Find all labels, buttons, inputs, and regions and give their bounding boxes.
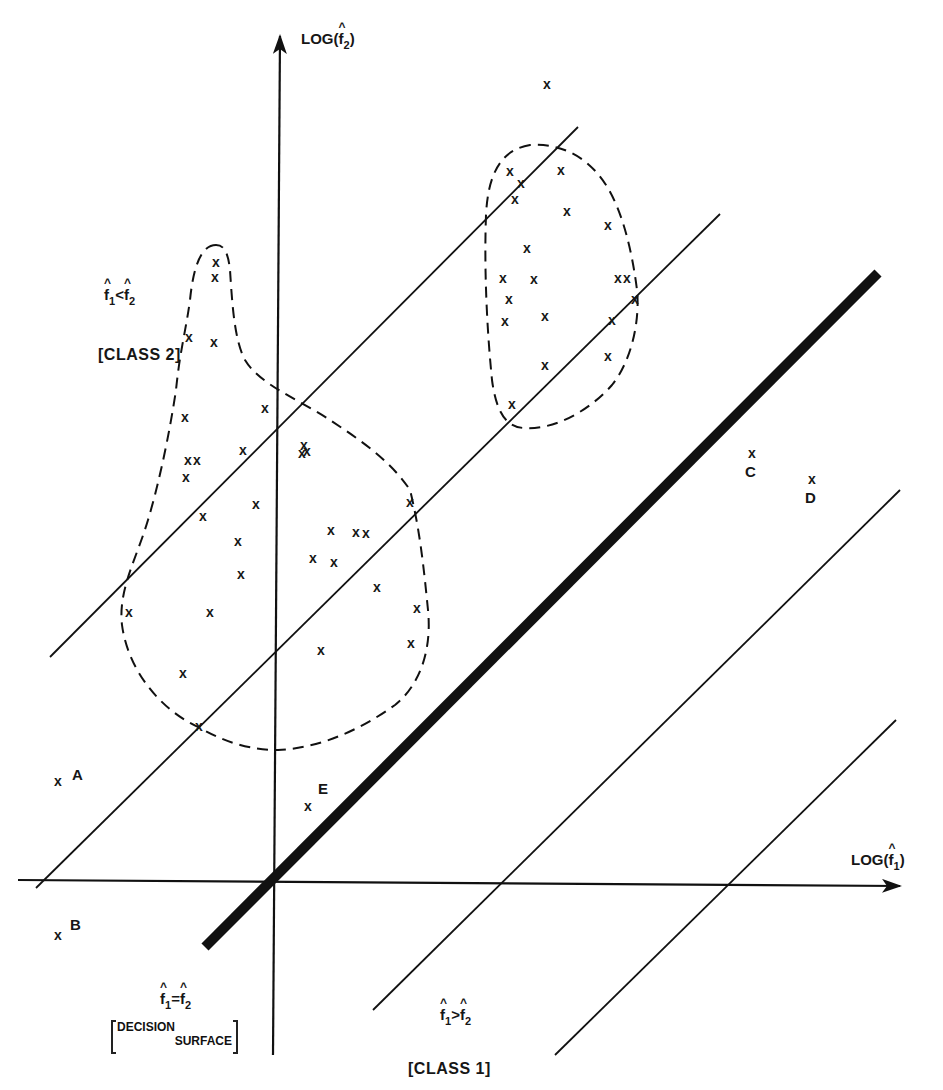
- data-point-marker: x: [604, 348, 612, 364]
- data-point-marker: x: [523, 240, 531, 256]
- labeled-point-marker-c: x: [748, 445, 756, 461]
- x-axis-var: f: [889, 851, 894, 868]
- data-point-marker: x: [508, 396, 516, 412]
- decision-surface-line: [205, 273, 878, 947]
- data-point-marker: x: [239, 442, 247, 458]
- class1-label: [CLASS 1]: [408, 1060, 491, 1078]
- data-point-marker: x: [185, 329, 193, 345]
- data-point-marker: x: [543, 76, 551, 92]
- ds-var2: f: [180, 990, 185, 1007]
- data-point-marker: x: [237, 566, 245, 582]
- data-point-marker: x: [125, 604, 133, 620]
- data-point-marker: x: [362, 525, 370, 541]
- data-point-marker: x: [608, 312, 616, 328]
- threshold-line-lower-1: [373, 490, 900, 1010]
- hat-f-icon: f: [460, 1006, 465, 1023]
- data-point-marker: x: [210, 334, 218, 350]
- data-point-marker: x: [406, 494, 414, 510]
- hat-f-icon: f: [339, 30, 344, 47]
- ds-var1: f: [160, 990, 165, 1007]
- cluster-markers: xxxxxxxxxxxxxxxxxxxxxxxxxxxxxxxxxxxxxxxx…: [125, 76, 639, 734]
- decision-surface-line1: DECISION: [117, 1020, 232, 1034]
- point-label-b: B: [70, 916, 81, 933]
- hat-f-icon: f: [124, 286, 129, 303]
- hat-f-icon: f: [440, 1006, 445, 1023]
- data-point-marker: x: [557, 162, 565, 178]
- decision-surface-label: DECISION SURFACE: [111, 1020, 238, 1054]
- class1-op: >: [451, 1006, 460, 1023]
- data-point-marker: x: [184, 452, 192, 468]
- data-point-marker: x: [352, 524, 360, 540]
- x-axis: [18, 880, 900, 886]
- data-point-marker: x: [373, 579, 381, 595]
- data-point-marker: x: [206, 604, 214, 620]
- labeled-point-markers: xxxxx: [54, 445, 816, 943]
- data-point-marker: x: [317, 642, 325, 658]
- data-point-marker: x: [303, 443, 311, 459]
- point-label-e: E: [318, 780, 328, 797]
- hat-f-icon: f: [180, 990, 185, 1007]
- x-axis-label-prefix: LOG(: [851, 851, 889, 868]
- class2-sub2: 2: [129, 295, 135, 307]
- hat-f-icon: f: [889, 851, 894, 868]
- data-point-marker: x: [182, 469, 190, 485]
- data-point-marker: x: [541, 308, 549, 324]
- data-point-marker: x: [517, 175, 525, 191]
- data-point-marker: x: [327, 522, 335, 538]
- labeled-point-marker-d: x: [808, 471, 816, 487]
- data-point-marker: x: [212, 254, 220, 270]
- point-label-a: A: [72, 766, 83, 783]
- y-axis-label-prefix: LOG(: [301, 30, 339, 47]
- class1-var1: f: [440, 1006, 445, 1023]
- data-point-marker: x: [181, 409, 189, 425]
- data-point-marker: x: [614, 270, 622, 286]
- data-point-marker: x: [530, 271, 538, 287]
- x-axis-label-close: ): [900, 851, 905, 868]
- class2-label: [CLASS 2]: [98, 346, 181, 364]
- hat-f-icon: f: [160, 990, 165, 1007]
- data-point-marker: x: [234, 533, 242, 549]
- class2-var1: f: [104, 286, 109, 303]
- feature-space-diagram: xxxxxxxxxxxxxxxxxxxxxxxxxxxxxxxxxxxxxxxx…: [0, 0, 943, 1090]
- y-axis-var: f: [339, 30, 344, 47]
- threshold-line-lower-2: [555, 720, 896, 1055]
- class2-op: <: [115, 286, 124, 303]
- y-axis: [273, 36, 280, 1055]
- data-point-marker: x: [623, 270, 631, 286]
- y-axis-label: LOG(f2): [301, 30, 355, 51]
- y-axis-label-close: ): [350, 30, 355, 47]
- data-point-marker: x: [541, 357, 549, 373]
- threshold-line-mid: [36, 214, 720, 888]
- data-point-marker: x: [499, 270, 507, 286]
- data-point-marker: x: [501, 313, 509, 329]
- data-point-marker: x: [407, 635, 415, 651]
- data-point-marker: x: [193, 452, 201, 468]
- data-point-marker: x: [211, 269, 219, 285]
- class1-sub2: 2: [465, 1015, 471, 1027]
- data-point-marker: x: [631, 291, 639, 307]
- data-point-marker: x: [413, 600, 421, 616]
- data-point-marker: x: [179, 665, 187, 681]
- point-label-d: D: [805, 489, 816, 506]
- ds-sub2: 2: [185, 999, 191, 1011]
- point-label-c: C: [745, 463, 756, 480]
- data-point-marker: x: [563, 203, 571, 219]
- labeled-point-marker-e: x: [304, 798, 312, 814]
- data-point-marker: x: [511, 191, 519, 207]
- decision-surface-line2: SURFACE: [117, 1034, 232, 1048]
- data-point-marker: x: [506, 163, 514, 179]
- class2-var2: f: [124, 286, 129, 303]
- decision-surface-condition: f1=f2: [160, 990, 191, 1011]
- data-point-marker: x: [330, 554, 338, 570]
- hat-f-icon: f: [104, 286, 109, 303]
- data-point-marker: x: [195, 718, 203, 734]
- cluster-boundary-right: [485, 145, 637, 428]
- class1-var2: f: [460, 1006, 465, 1023]
- ds-op: =: [171, 990, 180, 1007]
- data-point-marker: x: [505, 291, 513, 307]
- data-point-marker: x: [309, 550, 317, 566]
- threshold-line-upper: [50, 127, 578, 657]
- labeled-point-marker-b: x: [54, 927, 62, 943]
- class1-condition: f1>f2: [440, 1006, 471, 1027]
- x-axis-label: LOG(f1): [851, 851, 905, 872]
